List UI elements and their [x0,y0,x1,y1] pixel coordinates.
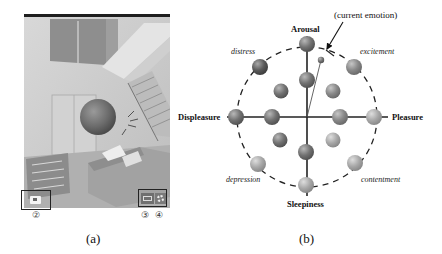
label-pleasure: Pleasure [392,113,423,122]
sphere-distress[interactable] [252,59,268,75]
circumplex-diagram [0,0,442,254]
current-emotion-dot[interactable] [318,57,324,63]
sphere-inner-upper-left[interactable] [274,84,289,99]
label-sleepiness: Sleepiness [287,200,324,209]
sphere-inner-lower-right[interactable] [326,133,341,148]
label-arousal: Arousal [291,25,320,34]
sphere-inner-upper-right[interactable] [326,84,341,99]
sphere-arousal[interactable] [299,36,315,52]
sphere-pleasure[interactable] [366,109,382,125]
sphere-sleepiness[interactable] [298,177,314,193]
emotion-spheres [228,36,382,193]
label-excitement: excitement [360,48,394,56]
label-current-emotion: (current emotion) [334,11,397,20]
sphere-inner-left[interactable] [264,109,280,125]
sphere-contentment[interactable] [347,155,363,171]
sphere-depression[interactable] [250,156,266,172]
sphere-inner-lower-left[interactable] [273,133,288,148]
sphere-inner-bottom[interactable] [298,144,314,160]
emotion-vector [307,60,321,117]
pointer-arrow [327,22,343,49]
label-depression: depression [226,176,260,184]
label-contentment: contentment [361,176,400,184]
caption-b: (b) [299,232,314,245]
label-distress: distress [231,48,255,56]
sphere-excitement[interactable] [346,59,362,75]
sphere-inner-top[interactable] [299,72,315,88]
sphere-inner-right[interactable] [332,109,348,125]
label-displeasure: Displeasure [178,113,220,122]
sphere-displeasure[interactable] [228,109,244,125]
